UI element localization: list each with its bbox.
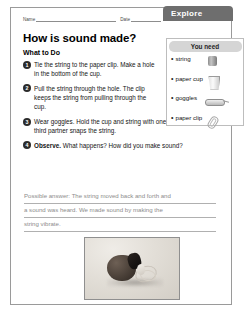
bullet-icon: • [171, 55, 173, 63]
you-need-item-label: paper cup [175, 75, 204, 82]
answer-line[interactable]: a sound was heard. We made sound by maki… [24, 204, 216, 218]
you-need-item-label: paper clip [175, 114, 204, 121]
page-title: How is sound made? [23, 32, 136, 44]
answer-line[interactable]: string vibrate. [24, 218, 216, 232]
step-number-badge: 1 [23, 61, 31, 69]
you-need-list: • string • paper cup • goggles • paper c… [167, 53, 243, 131]
you-need-box: You need • string • paper cup • goggles … [166, 38, 244, 126]
name-label: Name [23, 17, 36, 22]
you-need-item-label: goggles [175, 94, 204, 101]
you-need-item-string: • string [171, 55, 243, 72]
string-spool-icon [204, 55, 230, 72]
you-need-item-paper-cup: • paper cup [171, 75, 243, 92]
date-label: Date [120, 17, 131, 22]
observe-lead: Observe. [34, 142, 61, 149]
you-need-header: You need [169, 41, 242, 52]
step-text: What happens? How did you make sound? [63, 142, 183, 149]
answer-line[interactable]: Possible answer: The string moved back a… [24, 190, 216, 204]
you-need-item-label: string [175, 55, 204, 62]
you-need-item-paper-clip: • paper clip [171, 114, 243, 131]
paper-clip-icon [204, 114, 230, 131]
you-need-item-goggles: • goggles [171, 94, 243, 111]
step-number-badge: 4 [23, 141, 31, 149]
step-item: 4 Observe. What happens? How did you mak… [23, 141, 219, 150]
cup-with-string-photo [84, 237, 180, 300]
bullet-icon: • [171, 75, 173, 83]
bullet-icon: • [171, 94, 173, 102]
name-date-row: Name Date [23, 16, 161, 22]
step-number-badge: 3 [23, 118, 31, 126]
goggles-icon [204, 94, 230, 111]
paper-cup-icon [204, 75, 230, 92]
answer-area[interactable]: Possible answer: The string moved back a… [24, 190, 216, 232]
worksheet-page: Name Date How is sound made? What to Do … [10, 7, 232, 305]
step-text-observe: Observe. What happens? How did you make … [34, 141, 214, 150]
tab-explore[interactable]: Explore [163, 6, 233, 21]
paper-clip-in-photo [137, 264, 145, 275]
bullet-icon: • [171, 114, 173, 122]
date-blank-line[interactable] [131, 16, 161, 22]
name-blank-line[interactable] [36, 16, 116, 22]
step-text: Pull the string through the hole. The cl… [34, 84, 158, 112]
step-number-badge: 2 [23, 84, 31, 92]
step-text: Tie the string to the paper clip. Make a… [34, 60, 158, 78]
section-subtitle: What to Do [23, 49, 60, 56]
